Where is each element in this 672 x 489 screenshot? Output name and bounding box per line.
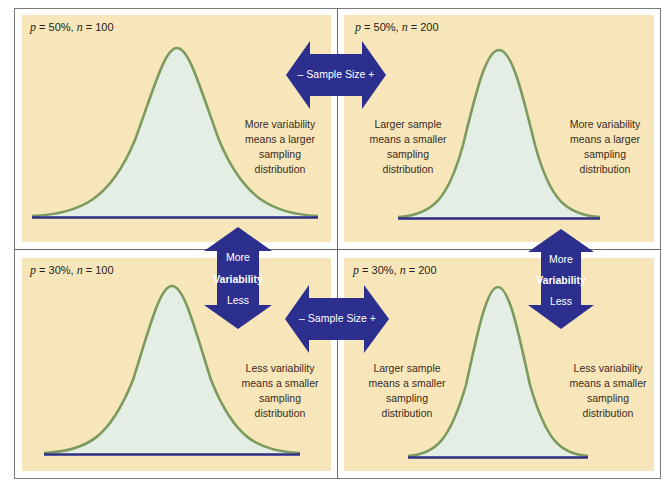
note-line: means a smaller: [225, 376, 335, 391]
variability-label-right-more: More: [528, 253, 594, 265]
label-n-value: = 200: [408, 21, 439, 33]
variability-label-bold: Variability: [536, 274, 586, 286]
label-n-value: = 100: [83, 21, 114, 33]
note-line: sampling: [225, 391, 335, 406]
note-line: Larger sample: [352, 361, 462, 376]
note-line: More variability: [225, 117, 335, 132]
note-line: distribution: [550, 162, 660, 177]
label-n-value: = 100: [83, 264, 114, 276]
label-p-value: = 50%,: [361, 21, 402, 33]
panel-label-top-left: p = 50%, n = 100: [30, 20, 114, 35]
note-line: distribution: [353, 162, 463, 177]
label-p-value: = 50%,: [36, 21, 77, 33]
variability-label-left-more: More: [204, 251, 272, 263]
note-line: More variability: [550, 117, 660, 132]
variability-label-left-mid: Variability: [204, 273, 272, 285]
variability-label-right-mid: Variability: [528, 274, 594, 286]
note-line: means a smaller: [553, 376, 663, 391]
note-line: distribution: [225, 162, 335, 177]
note-line: Less variability: [225, 361, 335, 376]
note-line: distribution: [553, 406, 663, 421]
note-line: sampling: [225, 147, 335, 162]
variability-label-right-less: Less: [528, 295, 594, 307]
note-line: sampling: [553, 391, 663, 406]
panel-label-top-right: p = 50%, n = 200: [355, 20, 439, 35]
note-top-left: More variability means a larger sampling…: [225, 117, 335, 177]
note-line: Less variability: [553, 361, 663, 376]
note-line: Larger sample: [353, 117, 463, 132]
note-bottom-left: Less variability means a smaller samplin…: [225, 361, 335, 421]
note-line: distribution: [225, 406, 335, 421]
note-top-right-sample: Larger sample means a smaller sampling d…: [353, 117, 463, 177]
note-line: sampling: [550, 147, 660, 162]
variability-label-bold: Variability: [213, 273, 263, 285]
label-p-value: = 30%,: [36, 264, 77, 276]
note-line: means a larger: [225, 132, 335, 147]
sample-size-label-top: – Sample Size +: [286, 68, 386, 80]
label-n-value: = 200: [406, 264, 437, 276]
note-bottom-right-variability: Less variability means a smaller samplin…: [553, 361, 663, 421]
note-line: distribution: [352, 406, 462, 421]
note-line: means a smaller: [352, 376, 462, 391]
note-line: sampling: [352, 391, 462, 406]
panel-label-bottom-right: p = 30%, n = 200: [353, 263, 437, 278]
note-bottom-right-sample: Larger sample means a smaller sampling d…: [352, 361, 462, 421]
note-top-right-variability: More variability means a larger sampling…: [550, 117, 660, 177]
sample-size-label-bottom: – Sample Size +: [286, 312, 389, 324]
note-line: means a larger: [550, 132, 660, 147]
variability-label-left-less: Less: [204, 294, 272, 306]
panel-label-bottom-left: p = 30%, n = 100: [30, 263, 114, 278]
label-p-value: = 30%,: [359, 264, 400, 276]
note-line: means a smaller: [353, 132, 463, 147]
note-line: sampling: [353, 147, 463, 162]
